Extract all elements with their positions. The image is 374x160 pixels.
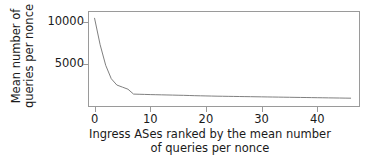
series-polyline	[95, 18, 351, 98]
x-tick-label: 0	[75, 114, 115, 126]
x-tick-label: 20	[186, 114, 226, 126]
x-tick-label: 10	[130, 114, 170, 126]
plot-area	[88, 11, 360, 107]
y-axis-label-line2: queries per nonce	[23, 4, 36, 108]
y-tick-label: 5000	[38, 58, 84, 70]
x-axis-label-line1: Ingress ASes ranked by the mean number	[60, 128, 360, 142]
x-axis-label-line2: of queries per nonce	[60, 142, 360, 156]
x-tick-label: 30	[242, 114, 282, 126]
y-axis-label-line1: Mean number of	[10, 9, 23, 104]
chart-figure: Mean number of queries per nonce 5000100…	[0, 0, 374, 160]
data-line-series	[89, 12, 359, 106]
y-tick-label: 10000	[38, 16, 84, 28]
x-tick-label: 40	[297, 114, 337, 126]
x-axis-label: Ingress ASes ranked by the mean number o…	[60, 128, 360, 155]
